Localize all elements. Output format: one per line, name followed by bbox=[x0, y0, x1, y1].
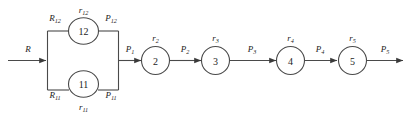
stage-4-node-label: 4 bbox=[288, 56, 293, 67]
branch-bottom-resource-label: R11 bbox=[48, 90, 60, 101]
stage-2-node-label: 2 bbox=[153, 56, 158, 67]
process-flow-diagram: R 12 R12 r12 P12 11 R11 r11 P11 P1 bbox=[0, 0, 414, 115]
stage-4-group: 4 r4 P4 bbox=[277, 33, 338, 75]
stage-2-output-label: P2 bbox=[180, 44, 190, 55]
stage-2-rate-label: r2 bbox=[152, 33, 159, 44]
stage-5-output-label: P5 bbox=[380, 44, 390, 55]
stage-3-node-label: 3 bbox=[213, 56, 218, 67]
stage-5-group: 5 r5 P5 bbox=[339, 33, 404, 75]
branch-top-resource-label: R12 bbox=[48, 13, 61, 24]
stage-2-group: 2 r2 P2 bbox=[142, 33, 202, 75]
stage-5-node-label: 5 bbox=[350, 56, 355, 67]
branch-top-group: 12 R12 r12 P12 bbox=[48, 5, 117, 44]
branch-top-product-label: P12 bbox=[104, 13, 117, 24]
branch-bottom-product-label: P11 bbox=[104, 90, 116, 101]
stage-3-output-label: P3 bbox=[247, 44, 257, 55]
branch-bottom-node-label: 11 bbox=[79, 79, 89, 90]
branch-bottom-rate-label: r11 bbox=[79, 102, 88, 113]
stage-4-output-label: P4 bbox=[315, 44, 325, 55]
branch-bottom-group: 11 R11 r11 P11 bbox=[48, 71, 116, 113]
input-arrow-group: R bbox=[8, 44, 46, 61]
stage-3-rate-label: r3 bbox=[212, 33, 219, 44]
merge-flow-group: P1 bbox=[119, 44, 142, 61]
merge-flow-label: P1 bbox=[125, 44, 135, 55]
stage-5-rate-label: r5 bbox=[349, 33, 356, 44]
stage-4-rate-label: r4 bbox=[287, 33, 294, 44]
stage-3-group: 3 r3 P3 bbox=[202, 33, 277, 75]
diagram-canvas: R 12 R12 r12 P12 11 R11 r11 P11 P1 bbox=[0, 0, 414, 115]
branch-top-rate-label: r12 bbox=[79, 5, 89, 16]
branch-top-node-label: 12 bbox=[79, 26, 89, 37]
input-label: R bbox=[24, 44, 31, 54]
